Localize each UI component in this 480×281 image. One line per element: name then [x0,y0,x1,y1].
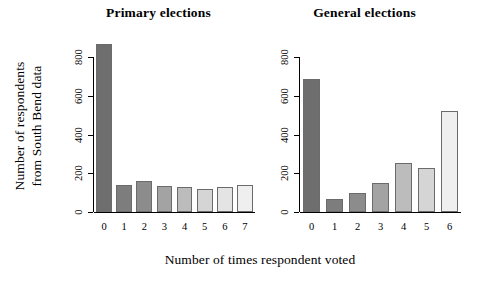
y-axis-title-line-2: from South Bend data [28,62,45,191]
bar [372,183,390,212]
y-tick-label: 200 [73,165,84,181]
y-tick-label: 800 [73,49,84,65]
bar-group-primary [94,38,255,212]
bar-slot [438,38,461,212]
bar [349,193,367,212]
y-tick-label: 0 [73,209,84,214]
bar-slot [94,38,114,212]
x-tick-label: 0 [300,221,323,232]
x-axis-title: Number of times respondent voted [60,252,460,268]
bar [197,189,213,212]
figure-canvas: Number of respondents from South Bend da… [0,0,480,281]
panel-primary-elections: Primary elections 0200400600800 01234567 [56,0,261,252]
y-tick [294,135,299,136]
bar [418,168,436,212]
y-tick [88,57,93,58]
y-tick-label: 200 [279,165,290,181]
y-tick [294,57,299,58]
bar-slot [235,38,255,212]
bar [177,187,193,212]
bar-slot [215,38,235,212]
bar [237,185,253,212]
plot-area-general: 0200400600800 0123456 [300,38,461,212]
panel-title-general: General elections [262,5,467,21]
x-tick-labels-general: 0123456 [300,221,461,232]
bar-group-general [300,38,461,212]
bar-slot [134,38,154,212]
y-tick [294,96,299,97]
bar-slot [300,38,323,212]
x-tick-label: 0 [94,221,114,232]
bar-slot [114,38,134,212]
y-tick [88,212,93,213]
x-tick-label: 3 [369,221,392,232]
panel-title-primary: Primary elections [56,5,261,21]
bar [136,181,152,212]
y-tick-label: 600 [279,88,290,104]
bar-slot [346,38,369,212]
bar [96,44,112,212]
x-tick-label: 1 [114,221,134,232]
bar [217,187,233,212]
x-axis-line-primary [94,212,255,213]
bar [326,199,344,212]
x-tick-label: 3 [154,221,174,232]
bar-slot [175,38,195,212]
x-tick-label: 7 [235,221,255,232]
x-tick-label: 2 [134,221,154,232]
bar-slot [195,38,215,212]
bar-slot [415,38,438,212]
bar [116,185,132,212]
y-tick-label: 600 [73,88,84,104]
bar-slot [369,38,392,212]
x-tick-label: 4 [175,221,195,232]
x-tick-label: 1 [323,221,346,232]
bar-slot [154,38,174,212]
plot-area-primary: 0200400600800 01234567 [94,38,255,212]
y-axis-title-line-1: Number of respondents [11,62,28,191]
bar [395,163,413,212]
x-tick-label: 2 [346,221,369,232]
x-tick-label: 6 [215,221,235,232]
y-tick-label: 400 [279,127,290,143]
y-tick-label: 400 [73,127,84,143]
bar [303,79,321,212]
y-tick [88,96,93,97]
x-tick-label: 5 [415,221,438,232]
bar [441,111,459,212]
y-tick [88,173,93,174]
x-axis-line-general [300,212,461,213]
x-tick-label: 4 [392,221,415,232]
panel-general-elections: General elections 0200400600800 0123456 [262,0,467,252]
y-tick-label: 0 [279,209,290,214]
y-axis-title: Number of respondents from South Bend da… [6,28,50,224]
y-tick-label: 800 [279,49,290,65]
bar [157,186,173,212]
y-tick [294,212,299,213]
bar-slot [323,38,346,212]
x-tick-label: 5 [195,221,215,232]
x-tick-label: 6 [438,221,461,232]
bar-slot [392,38,415,212]
y-tick [88,135,93,136]
x-tick-labels-primary: 01234567 [94,221,255,232]
y-tick [294,173,299,174]
